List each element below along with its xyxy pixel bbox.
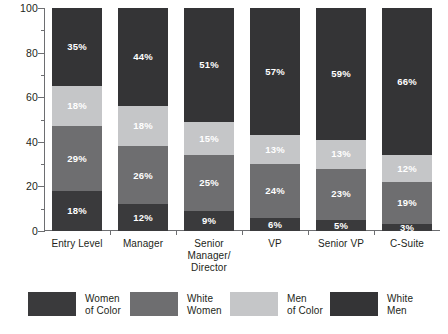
bar-stack: 3%19%12%66% [382, 8, 432, 231]
bar-segment[interactable]: 29% [52, 126, 102, 191]
bar-segment[interactable]: 5% [316, 220, 366, 231]
stacked-bar-chart: 020406080100 18%29%18%35%12%26%18%44%9%2… [0, 0, 448, 334]
bar-segment[interactable]: 13% [250, 135, 300, 164]
bar-segment[interactable]: 15% [184, 122, 234, 155]
x-axis-tick [374, 231, 375, 235]
legend-color-swatch [330, 292, 378, 316]
bar-segment-value-label: 9% [202, 216, 216, 226]
bar-segment[interactable]: 18% [52, 191, 102, 231]
bar-group[interactable]: 12%26%18%44% [118, 8, 168, 231]
bar-segment-value-label: 3% [400, 223, 414, 233]
plot-area: 020406080100 18%29%18%35%12%26%18%44%9%2… [0, 0, 448, 245]
bar-segment-value-label: 26% [133, 171, 153, 181]
bar-group[interactable]: 18%29%18%35% [52, 8, 102, 231]
legend-label: Women of Color [85, 292, 121, 317]
x-axis-label-1: Entry Level [44, 238, 110, 250]
y-major-tick-20 [38, 186, 45, 187]
y-minor-tick-30 [41, 164, 45, 165]
bar-segment-value-label: 25% [199, 178, 219, 188]
bar-segment[interactable]: 6% [250, 218, 300, 231]
bar-segment[interactable]: 24% [250, 164, 300, 218]
bar-stack: 5%23%13%59% [316, 8, 366, 231]
y-major-tick-0 [38, 231, 45, 232]
bar-stack: 12%26%18%44% [118, 8, 168, 231]
bar-segment-value-label: 24% [265, 186, 285, 196]
bar-group[interactable]: 3%19%12%66% [382, 8, 432, 231]
bar-segment-value-label: 18% [67, 101, 87, 111]
bar-segment-value-label: 13% [331, 149, 351, 159]
y-minor-tick-90 [41, 30, 45, 31]
y-minor-tick-70 [41, 75, 45, 76]
y-tick-label-20: 20 [26, 180, 38, 192]
bar-segment-value-label: 51% [199, 60, 219, 70]
bar-segment[interactable]: 59% [316, 8, 366, 140]
bar-segment-value-label: 13% [265, 145, 285, 155]
legend-item[interactable]: Women of Color [28, 292, 121, 317]
y-major-tick-80 [38, 53, 45, 54]
y-minor-tick-10 [41, 209, 45, 210]
bar-segment[interactable]: 12% [118, 204, 168, 231]
bar-segment[interactable]: 25% [184, 155, 234, 211]
bars-layer: 18%29%18%35%12%26%18%44%9%25%15%51%6%24%… [44, 8, 440, 231]
bar-group[interactable]: 9%25%15%51% [184, 8, 234, 231]
y-tick-label-100: 100 [20, 2, 38, 14]
bar-segment-value-label: 35% [67, 42, 87, 52]
bar-stack: 18%29%18%35% [52, 8, 102, 231]
bar-segment[interactable]: 3% [382, 224, 432, 231]
y-minor-tick-50 [41, 120, 45, 121]
bar-segment[interactable]: 35% [52, 8, 102, 86]
bar-segment-value-label: 5% [334, 221, 348, 231]
bar-segment[interactable]: 66% [382, 8, 432, 155]
x-axis-tick [110, 231, 111, 235]
bar-segment[interactable]: 12% [382, 155, 432, 182]
bar-group[interactable]: 5%23%13%59% [316, 8, 366, 231]
x-axis-label-2: Manager [110, 238, 176, 250]
bar-segment-value-label: 18% [133, 121, 153, 131]
y-major-tick-40 [38, 142, 45, 143]
legend-label: White Women [187, 292, 222, 317]
y-major-tick-100 [38, 8, 45, 9]
x-axis-tick [176, 231, 177, 235]
x-axis-tick [242, 231, 243, 235]
y-tick-label-40: 40 [26, 136, 38, 148]
bar-segment-value-label: 44% [133, 52, 153, 62]
x-axis-label-4: VP [242, 238, 308, 250]
bar-segment[interactable]: 57% [250, 8, 300, 135]
bar-segment[interactable]: 19% [382, 182, 432, 224]
x-axis-label-6: C-Suite [374, 238, 440, 250]
x-axis-tick [308, 231, 309, 235]
bar-segment[interactable]: 18% [52, 86, 102, 126]
bar-segment-value-label: 12% [397, 164, 417, 174]
legend-color-swatch [230, 292, 278, 316]
legend-item[interactable]: White Women [130, 292, 222, 317]
bar-segment[interactable]: 18% [118, 106, 168, 146]
y-major-tick-60 [38, 97, 45, 98]
bar-segment[interactable]: 13% [316, 140, 366, 169]
chart-legend: Women of ColorWhite WomenMen of ColorWhi… [0, 292, 448, 330]
bar-segment-value-label: 6% [268, 220, 282, 230]
bar-segment-value-label: 18% [67, 206, 87, 216]
bar-segment[interactable]: 23% [316, 169, 366, 220]
bar-segment-value-label: 12% [133, 213, 153, 223]
bar-segment-value-label: 29% [67, 154, 87, 164]
bar-segment-value-label: 19% [397, 198, 417, 208]
legend-item[interactable]: White Men [330, 292, 413, 317]
x-axis-label-5: Senior VP [308, 238, 374, 250]
bar-segment[interactable]: 51% [184, 8, 234, 122]
bar-segment-value-label: 23% [331, 189, 351, 199]
bar-segment-value-label: 66% [397, 77, 417, 87]
bar-segment[interactable]: 26% [118, 146, 168, 204]
legend-label: White Men [387, 292, 413, 317]
y-tick-label-60: 60 [26, 91, 38, 103]
bar-segment-value-label: 59% [331, 69, 351, 79]
y-tick-label-80: 80 [26, 47, 38, 59]
y-axis-tick-labels: 020406080100 [8, 8, 38, 230]
bar-group[interactable]: 6%24%13%57% [250, 8, 300, 231]
legend-label: Men of Color [287, 292, 323, 317]
bar-segment[interactable]: 9% [184, 211, 234, 231]
bar-segment-value-label: 57% [265, 67, 285, 77]
x-axis-category-labels: Entry LevelManagerSenior Manager/Directo… [44, 238, 440, 272]
legend-item[interactable]: Men of Color [230, 292, 323, 317]
bar-segment[interactable]: 44% [118, 8, 168, 106]
x-axis-label-3: Senior Manager/Director [176, 238, 242, 274]
